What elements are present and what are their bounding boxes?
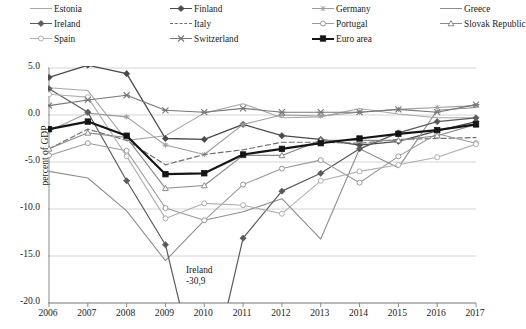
legend-marker-icon: [30, 3, 52, 14]
legend-marker-icon: [170, 18, 192, 29]
legend-item-germany[interactable]: Germany: [312, 3, 371, 14]
x-tick-label: 2006: [26, 307, 70, 318]
legend-item-finland[interactable]: Finland: [170, 3, 222, 14]
legend-item-switzerland[interactable]: Switzerland: [170, 33, 238, 44]
legend-marker-icon: [312, 18, 334, 29]
series-ireland: [48, 86, 479, 307]
x-tick-label: 2013: [298, 307, 342, 318]
y-tick-label: 0.0: [6, 107, 40, 118]
y-tick-label: -15.0: [6, 248, 40, 259]
legend-label: Switzerland: [193, 34, 238, 44]
gridlines: [49, 68, 476, 303]
legend-marker-icon: [312, 3, 334, 14]
x-tick-label: 2007: [65, 307, 109, 318]
legend-label: Portugal: [335, 19, 368, 29]
legend-item-estonia[interactable]: Estonia: [30, 3, 82, 14]
legend-item-italy[interactable]: Italy: [170, 18, 211, 29]
y-tick-label: -5.0: [6, 154, 40, 165]
x-tick-label: 2017: [453, 307, 497, 318]
legend-label: Italy: [193, 19, 211, 29]
legend-marker-icon: [440, 18, 462, 29]
annotation-line-1: Ireland: [186, 265, 213, 276]
chart-svg: [48, 66, 481, 307]
chart-legend: EstoniaFinlandGermanyGreeceIrelandItalyP…: [30, 2, 496, 48]
legend-label: Euro area: [335, 34, 372, 44]
legend-item-portugal[interactable]: Portugal: [312, 18, 368, 29]
y-tick-label: 5.0: [6, 60, 40, 71]
x-tick-label: 2012: [259, 307, 303, 318]
legend-marker-icon: [170, 33, 192, 44]
x-tick-label: 2009: [142, 307, 186, 318]
legend-item-ireland[interactable]: Ireland: [30, 18, 80, 29]
legend-item-slovak-republic[interactable]: Slovak Republic: [440, 18, 526, 29]
legend-marker-icon: [170, 3, 192, 14]
x-tick-label: 2016: [414, 307, 458, 318]
legend-label: Greece: [463, 4, 490, 14]
legend-marker-icon: [312, 33, 334, 44]
plot-area: [48, 66, 475, 301]
legend-item-greece[interactable]: Greece: [440, 3, 490, 14]
legend-item-euro-area[interactable]: Euro area: [312, 33, 372, 44]
data-series: [48, 66, 479, 307]
axis-lines: [48, 68, 476, 307]
legend-marker-icon: [30, 18, 52, 29]
legend-label: Slovak Republic: [463, 19, 526, 29]
x-tick-label: 2008: [104, 307, 148, 318]
x-tick-label: 2011: [220, 307, 264, 318]
y-tick-label: -10.0: [6, 201, 40, 212]
annotation-ireland: Ireland -30,9: [186, 265, 213, 287]
legend-marker-icon: [30, 33, 52, 44]
x-tick-label: 2010: [181, 307, 225, 318]
legend-label: Finland: [193, 4, 222, 14]
x-tick-label: 2014: [337, 307, 381, 318]
legend-label: Ireland: [53, 19, 80, 29]
y-tick-label: -20.0: [6, 295, 40, 306]
legend-item-spain[interactable]: Spain: [30, 33, 75, 44]
legend-label: Spain: [53, 34, 75, 44]
legend-marker-icon: [440, 3, 462, 14]
legend-label: Estonia: [53, 4, 82, 14]
legend-label: Germany: [335, 4, 371, 14]
x-tick-label: 2015: [375, 307, 419, 318]
annotation-line-2: -30,9: [186, 276, 213, 287]
